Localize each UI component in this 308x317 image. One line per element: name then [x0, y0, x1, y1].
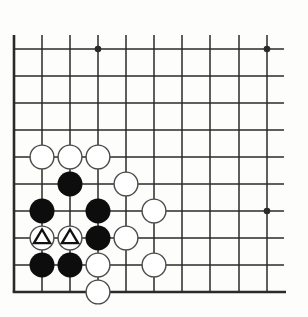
star-point [264, 46, 271, 53]
black-stone [58, 253, 83, 278]
go-board [0, 0, 308, 317]
white-stone [58, 145, 82, 169]
marked-white-stone [30, 226, 54, 250]
white-stone-body [58, 145, 82, 169]
white-stone-body [86, 145, 110, 169]
black-stone-body [86, 226, 111, 251]
white-stone [142, 199, 166, 223]
marked-white-stone [58, 226, 82, 250]
star-point [264, 208, 271, 215]
black-stone-body [30, 253, 55, 278]
black-stone-body [58, 172, 83, 197]
white-stone [86, 280, 110, 304]
white-stone [114, 172, 138, 196]
go-board-diagram [0, 0, 308, 317]
black-stone [30, 253, 55, 278]
star-point [95, 46, 102, 53]
white-stone [30, 145, 54, 169]
white-stone [86, 253, 110, 277]
white-stone-body [142, 253, 166, 277]
white-stone [114, 226, 138, 250]
black-stone [86, 226, 111, 251]
white-stone-body [142, 199, 166, 223]
white-stone [86, 145, 110, 169]
black-stone [86, 199, 111, 224]
white-stone-body [86, 253, 110, 277]
white-stone-body [30, 145, 54, 169]
black-stone-body [58, 253, 83, 278]
white-stone-body [114, 172, 138, 196]
black-stone-body [30, 199, 55, 224]
black-stone-body [86, 199, 111, 224]
white-stone-body [114, 226, 138, 250]
black-stone [30, 199, 55, 224]
white-stone-body [86, 280, 110, 304]
white-stone [142, 253, 166, 277]
black-stone [58, 172, 83, 197]
